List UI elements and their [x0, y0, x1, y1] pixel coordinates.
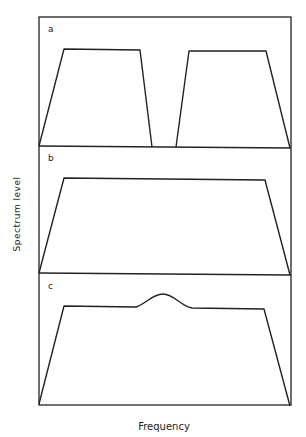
spectrum-figure [0, 0, 306, 437]
y-axis-label: Spectrum level [12, 177, 22, 252]
panel-a-label: a [48, 24, 54, 34]
panel-a-band-1 [39, 49, 152, 147]
panel-divider-ab [39, 146, 291, 148]
panel-c-label: c [48, 281, 53, 291]
panel-b-broadband [39, 178, 290, 275]
panel-divider-bc [39, 273, 291, 275]
panel-c-broadband-bump [39, 294, 290, 406]
panel-a-band-2 [176, 51, 290, 148]
x-axis-label: Frequency [0, 421, 306, 432]
panel-b-label: b [48, 153, 54, 163]
figure-frame [39, 17, 291, 405]
